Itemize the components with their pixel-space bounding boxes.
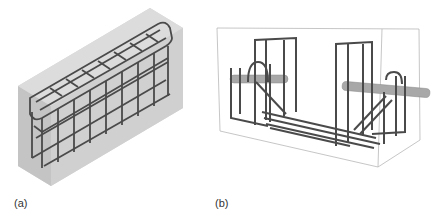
left-pin	[230, 75, 288, 83]
panel-a-rebar-cage-diagram	[0, 0, 200, 195]
box-outline	[217, 28, 420, 167]
panel-a-label: (a)	[14, 197, 27, 209]
right-pin	[342, 81, 430, 98]
panel-b-label: (b)	[215, 197, 228, 209]
panel-b-reinforcement-diagram	[210, 0, 448, 195]
